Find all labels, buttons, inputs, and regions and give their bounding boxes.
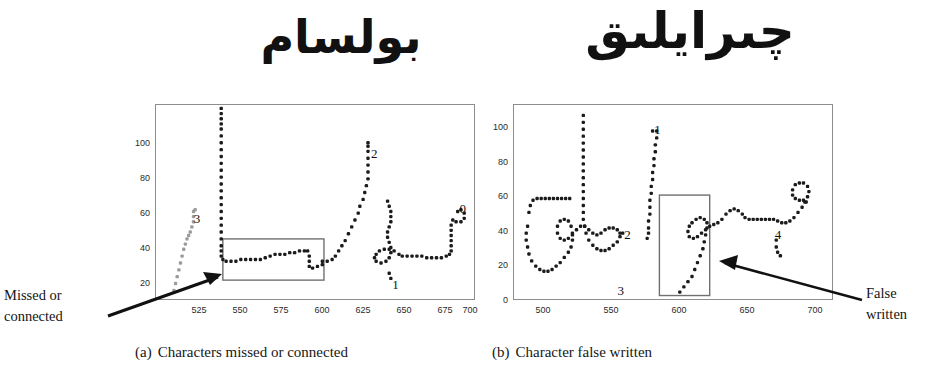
data-point (616, 228, 619, 231)
xtick-a-5: 650 (396, 305, 411, 315)
data-point (612, 226, 615, 229)
data-point (374, 260, 377, 263)
data-point (373, 256, 376, 259)
data-point (220, 175, 223, 178)
data-point (449, 239, 452, 242)
data-point (788, 219, 791, 222)
xtick-b-1: 550 (603, 305, 618, 315)
data-point (378, 249, 381, 252)
data-point (374, 253, 377, 256)
data-point (220, 155, 223, 158)
ytick-a-2: 60 (110, 208, 150, 218)
data-point (340, 244, 343, 247)
data-point (425, 256, 428, 259)
data-point (696, 261, 699, 264)
data-point (582, 114, 585, 117)
data-point (728, 209, 731, 212)
data-point (776, 219, 779, 222)
data-point (220, 134, 223, 137)
data-point (435, 256, 438, 259)
data-point (780, 221, 783, 224)
data-point (784, 221, 787, 224)
stroke-series-stroke-4 (678, 181, 810, 293)
xtick-a-2: 575 (273, 305, 288, 315)
plot-area-a: 0123 (155, 104, 475, 300)
data-point (268, 254, 271, 257)
data-point (798, 199, 801, 202)
data-point (794, 183, 797, 186)
data-point (569, 225, 572, 228)
data-point (647, 219, 650, 222)
data-point (716, 221, 719, 224)
data-point (806, 185, 809, 188)
ytick-b-0: 0 (468, 295, 508, 305)
data-point (220, 127, 223, 130)
xtick-b-2: 600 (671, 305, 686, 315)
data-point (686, 280, 689, 283)
data-point (459, 220, 462, 223)
data-point (567, 251, 570, 254)
data-point (388, 272, 391, 275)
data-point (647, 226, 650, 229)
data-point (259, 258, 262, 261)
data-point (698, 216, 701, 219)
data-point (386, 236, 389, 239)
data-point (559, 261, 562, 264)
data-point (582, 176, 585, 179)
data-point (530, 259, 533, 262)
caption-b-tag: (b) (492, 344, 510, 360)
data-point (244, 258, 247, 261)
data-point (526, 225, 529, 228)
data-point (366, 150, 369, 153)
data-point (720, 218, 723, 221)
data-point (794, 197, 797, 200)
data-point (582, 169, 585, 172)
data-point (651, 178, 654, 181)
data-point (791, 188, 794, 191)
data-point (654, 150, 657, 153)
data-point (772, 218, 775, 221)
data-point (535, 197, 538, 200)
data-point (563, 218, 566, 221)
data-point (326, 260, 329, 263)
data-point (539, 197, 542, 200)
data-point (220, 148, 223, 151)
data-point (599, 231, 602, 234)
data-point (552, 197, 555, 200)
data-point (556, 225, 559, 228)
data-point (587, 228, 590, 231)
data-point (234, 260, 237, 263)
data-point (556, 231, 559, 234)
scatter-canvas-a (156, 105, 474, 299)
highlight-rect (223, 239, 324, 280)
data-point (582, 121, 585, 124)
data-point (220, 122, 223, 125)
data-point (449, 249, 452, 252)
data-point (559, 219, 562, 222)
data-point (334, 254, 337, 257)
data-point (704, 228, 707, 231)
data-point (525, 238, 528, 241)
data-point (306, 249, 309, 252)
data-point (595, 233, 598, 236)
data-point (800, 206, 803, 209)
xtick-b-3: 650 (739, 305, 754, 315)
data-point (560, 197, 563, 200)
data-point (449, 234, 452, 237)
data-point (807, 190, 810, 193)
data-point (184, 242, 187, 245)
data-point (538, 268, 541, 271)
data-point (650, 185, 653, 188)
ytick-b-3: 60 (468, 191, 508, 201)
xtick-a-4: 625 (355, 305, 370, 315)
data-point (582, 190, 585, 193)
data-point (751, 218, 754, 221)
data-point (554, 264, 557, 267)
stroke-series-stroke-2 (582, 114, 625, 252)
callout-b-line1: False (866, 283, 907, 304)
data-point (278, 253, 281, 256)
data-point (343, 239, 346, 242)
plot-area-b: 1234 (513, 104, 833, 300)
data-point (379, 261, 382, 264)
data-point (386, 199, 389, 202)
